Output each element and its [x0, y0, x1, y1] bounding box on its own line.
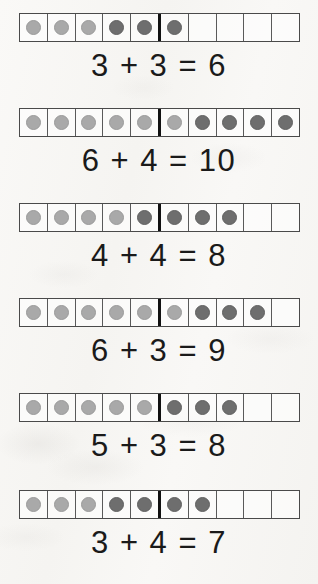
- equation-text: 3 + 4 = 7: [0, 524, 318, 562]
- ten-frame-cell[interactable]: [48, 14, 76, 41]
- ten-frame-cell[interactable]: [48, 109, 76, 136]
- counter-dot-light: [26, 115, 41, 130]
- counter-dot-light: [81, 210, 96, 225]
- counter-dot-light: [26, 400, 41, 415]
- ten-frame-cell[interactable]: [103, 394, 131, 421]
- ten-frame-cell[interactable]: [244, 394, 272, 421]
- ten-frame-cell[interactable]: [161, 299, 189, 326]
- ten-frame-cell[interactable]: [48, 394, 76, 421]
- ten-frame-grid: [19, 203, 300, 232]
- ten-frame-cell[interactable]: [161, 491, 189, 518]
- ten-frame-cell-divider[interactable]: [131, 394, 161, 421]
- equation-text: 6 + 3 = 9: [0, 332, 318, 370]
- ten-frame-cell[interactable]: [20, 204, 48, 231]
- worksheet-sheet: 3 + 3 = 66 + 4 = 104 + 4 = 86 + 3 = 95 +…: [0, 0, 318, 584]
- counter-dot-dark: [109, 20, 124, 35]
- ten-frame-cell-divider[interactable]: [131, 109, 161, 136]
- ten-frame-cell[interactable]: [272, 299, 299, 326]
- counter-dot-light: [109, 305, 124, 320]
- counter-dot-dark: [195, 210, 210, 225]
- counter-dot-dark: [250, 305, 265, 320]
- counter-dot-light: [109, 210, 124, 225]
- ten-frame-cell-divider[interactable]: [131, 299, 161, 326]
- ten-frame-cell[interactable]: [272, 204, 299, 231]
- ten-frame-cell[interactable]: [76, 491, 104, 518]
- counter-dot-dark: [195, 115, 210, 130]
- ten-frame-cell[interactable]: [272, 394, 299, 421]
- ten-frame-cell[interactable]: [189, 299, 217, 326]
- ten-frame-cell[interactable]: [48, 491, 76, 518]
- ten-frame-cell[interactable]: [272, 14, 299, 41]
- ten-frame-cell-divider[interactable]: [131, 491, 161, 518]
- ten-frame-cell[interactable]: [244, 491, 272, 518]
- ten-frame-cell[interactable]: [48, 204, 76, 231]
- ten-frame-cell[interactable]: [244, 299, 272, 326]
- counter-dot-light: [54, 497, 69, 512]
- ten-frame-grid: [19, 13, 300, 42]
- ten-frame-cell[interactable]: [189, 394, 217, 421]
- ten-frame-grid: [19, 298, 300, 327]
- ten-frame-cell[interactable]: [20, 491, 48, 518]
- ten-frame-cell[interactable]: [103, 14, 131, 41]
- ten-frame-cell[interactable]: [76, 204, 104, 231]
- ten-frame-cell[interactable]: [161, 109, 189, 136]
- ten-frame-cell[interactable]: [20, 109, 48, 136]
- ten-frame-cell[interactable]: [20, 299, 48, 326]
- ten-frame-grid: [19, 393, 300, 422]
- ten-frame-cell[interactable]: [103, 299, 131, 326]
- counter-dot-dark: [222, 210, 237, 225]
- counter-dot-light: [109, 400, 124, 415]
- counter-dot-light: [81, 400, 96, 415]
- ten-frame-cell[interactable]: [244, 204, 272, 231]
- ten-frame-cell[interactable]: [76, 299, 104, 326]
- ten-frame-cell-divider[interactable]: [131, 204, 161, 231]
- ten-frame-cell[interactable]: [103, 204, 131, 231]
- equation-text: 6 + 4 = 10: [0, 142, 318, 180]
- counter-dot-dark: [167, 497, 182, 512]
- ten-frame-cell[interactable]: [161, 204, 189, 231]
- counter-dot-dark: [167, 400, 182, 415]
- counter-dot-light: [54, 210, 69, 225]
- ten-frame-cell[interactable]: [217, 491, 245, 518]
- counter-dot-light: [54, 115, 69, 130]
- counter-dot-light: [26, 497, 41, 512]
- ten-frame-cell[interactable]: [76, 14, 104, 41]
- counter-dot-light: [54, 400, 69, 415]
- counter-dot-light: [167, 115, 182, 130]
- counter-dot-dark: [137, 497, 152, 512]
- counter-dot-dark: [137, 210, 152, 225]
- counter-dot-light: [81, 305, 96, 320]
- ten-frame-cell[interactable]: [189, 491, 217, 518]
- counter-dot-light: [54, 305, 69, 320]
- ten-frame-cell[interactable]: [189, 14, 217, 41]
- ten-frame-cell[interactable]: [244, 14, 272, 41]
- counter-dot-light: [109, 115, 124, 130]
- ten-frame-cell[interactable]: [161, 14, 189, 41]
- ten-frame-cell[interactable]: [217, 14, 245, 41]
- ten-frame-cell[interactable]: [20, 394, 48, 421]
- ten-frame-cell[interactable]: [161, 394, 189, 421]
- ten-frame-cell[interactable]: [217, 394, 245, 421]
- counter-dot-light: [167, 305, 182, 320]
- ten-frame-cell[interactable]: [217, 204, 245, 231]
- ten-frame-cell[interactable]: [272, 491, 299, 518]
- counter-dot-dark: [195, 400, 210, 415]
- ten-frame-cell-divider[interactable]: [131, 14, 161, 41]
- ten-frame-cell[interactable]: [103, 491, 131, 518]
- ten-frame-cell[interactable]: [20, 14, 48, 41]
- ten-frame-cell[interactable]: [48, 299, 76, 326]
- ten-frame-grid: [19, 108, 300, 137]
- counter-dot-light: [137, 305, 152, 320]
- ten-frame-cell[interactable]: [76, 109, 104, 136]
- ten-frame-cell[interactable]: [76, 394, 104, 421]
- equation-text: 5 + 3 = 8: [0, 427, 318, 465]
- ten-frame-cell[interactable]: [272, 109, 299, 136]
- ten-frame-cell[interactable]: [244, 109, 272, 136]
- counter-dot-dark: [222, 115, 237, 130]
- ten-frame-cell[interactable]: [217, 109, 245, 136]
- ten-frame-cell[interactable]: [103, 109, 131, 136]
- ten-frame-cell[interactable]: [189, 204, 217, 231]
- ten-frame-cell[interactable]: [217, 299, 245, 326]
- counter-dot-light: [54, 20, 69, 35]
- ten-frame-cell[interactable]: [189, 109, 217, 136]
